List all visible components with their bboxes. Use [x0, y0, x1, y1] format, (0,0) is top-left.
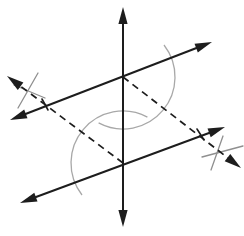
lower-parallel-line-arrowhead-start	[20, 193, 38, 203]
upper-parallel-line-arrowhead-start	[10, 110, 28, 120]
upper-parallel-line	[17, 45, 205, 117]
arc-cross-mark-right-shallow	[202, 146, 243, 157]
dashed-ray-upper-left	[13, 81, 123, 163]
vertical-transversal-line-arrowhead-end	[118, 7, 127, 24]
dashed-ray-lower-right	[123, 77, 235, 163]
upper-parallel-line-arrowhead-end	[195, 42, 213, 52]
dashed-ray-lower-right-arrowhead-end	[225, 154, 241, 168]
vertical-transversal-line-arrowhead-start	[118, 210, 127, 227]
diagram-canvas	[0, 0, 244, 236]
geometry-diagram	[0, 0, 244, 236]
lower-parallel-line-arrowhead-end	[208, 127, 226, 137]
